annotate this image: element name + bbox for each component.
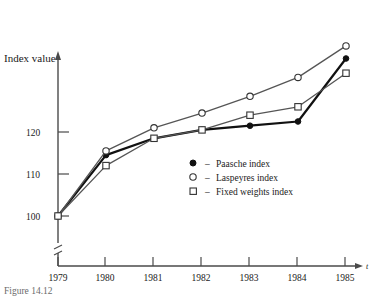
index-value-line-chart: Index value t 120 110 100 1979 1980 1981… [0, 0, 372, 296]
y-tick-label-120: 120 [26, 128, 41, 138]
legend-marker-filled-circle-icon [190, 160, 196, 166]
data-point-laspeyres-index-1983 [247, 93, 253, 99]
series-line-fixed-weights-index [58, 73, 346, 216]
legend-marker-open-square-icon [190, 188, 196, 194]
y-axis-title: Index value [4, 52, 56, 64]
data-point-laspeyres-index-1981 [151, 125, 157, 131]
x-tick-label-1984: 1984 [288, 273, 307, 283]
series-paasche-index [55, 56, 349, 219]
data-point-fixed-weights-index-1985 [343, 70, 349, 76]
data-point-laspeyres-index-1980 [103, 148, 109, 154]
legend-dash-laspeyres: – [204, 173, 210, 183]
x-axis-ticks [58, 257, 345, 266]
figure-caption: Figure 14.12 [4, 286, 53, 296]
y-tick-label-100: 100 [26, 212, 41, 222]
data-point-paasche-index-1983 [247, 123, 253, 129]
data-point-fixed-weights-index-1984 [295, 104, 301, 110]
data-point-fixed-weights-index-1983 [247, 112, 253, 118]
x-tick-label-1979: 1979 [49, 273, 68, 283]
legend-label-paasche: Paasche index [216, 159, 270, 169]
x-tick-label-1983: 1983 [240, 273, 259, 283]
data-point-laspeyres-index-1984 [295, 74, 301, 80]
data-point-fixed-weights-index-1979 [55, 213, 61, 219]
chart-legend: – Paasche index – Laspeyres index – Fixe… [190, 159, 293, 197]
data-point-paasche-index-1984 [295, 119, 301, 125]
data-point-laspeyres-index-1982 [199, 110, 205, 116]
data-point-paasche-index-1985 [343, 56, 349, 62]
legend-label-laspeyres: Laspeyres index [216, 173, 278, 183]
legend-marker-open-circle-icon [190, 174, 196, 180]
x-axis-symbol: t [366, 262, 369, 271]
data-point-fixed-weights-index-1980 [103, 162, 109, 168]
x-tick-label-1981: 1981 [144, 273, 163, 283]
legend-dash-fixed-weights: – [204, 187, 210, 197]
series-fixed-weights-index [55, 70, 349, 219]
data-point-fixed-weights-index-1982 [199, 127, 205, 133]
legend-label-fixed-weights: Fixed weights index [216, 187, 293, 197]
data-point-fixed-weights-index-1981 [151, 135, 157, 141]
y-axis-break-mark-upper [54, 245, 62, 249]
x-tick-label-1982: 1982 [192, 273, 211, 283]
x-tick-label-1980: 1980 [96, 273, 115, 283]
y-tick-label-110: 110 [26, 170, 40, 180]
data-point-laspeyres-index-1985 [343, 43, 349, 49]
series-layer [55, 43, 349, 220]
x-tick-label-1985: 1985 [336, 273, 355, 283]
series-line-paasche-index [58, 59, 346, 217]
legend-dash-paasche: – [204, 159, 210, 169]
x-axis-arrowhead [355, 263, 363, 269]
